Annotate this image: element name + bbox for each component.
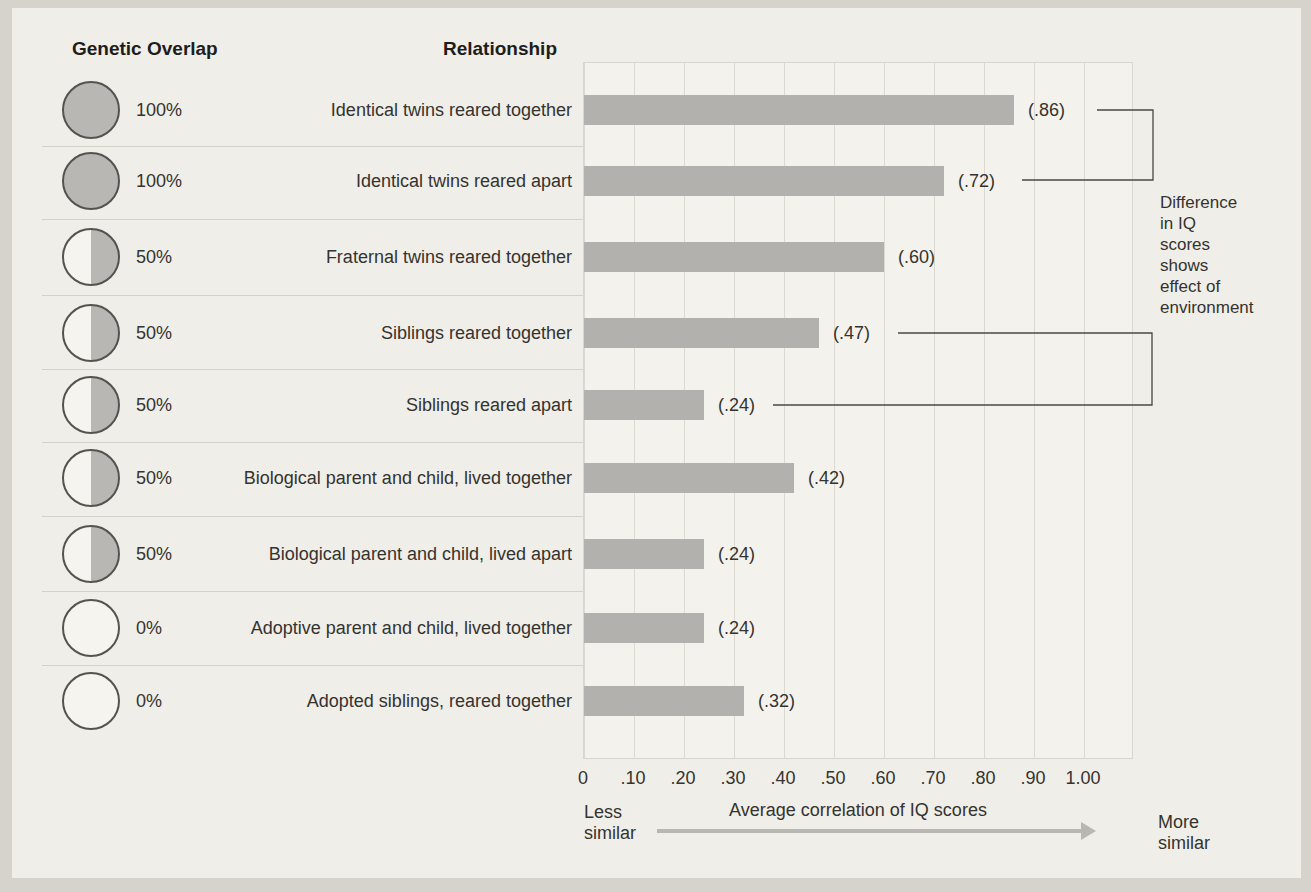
- correlation-bar: [584, 95, 1014, 125]
- x-axis-tick: .80: [970, 768, 995, 789]
- overlap-circle: [62, 304, 120, 362]
- x-axis-tick: .20: [670, 768, 695, 789]
- overlap-percent: 0%: [136, 691, 162, 712]
- row-separator: [42, 665, 583, 666]
- correlation-bar: [584, 318, 819, 348]
- row-separator: [42, 516, 583, 517]
- annotation-line: effect of: [1160, 276, 1290, 297]
- bar-value-label: (.72): [958, 171, 995, 192]
- relationship-label: Identical twins reared together: [240, 86, 572, 134]
- annotation-line: scores: [1160, 234, 1290, 255]
- annotation-line: environment: [1160, 297, 1290, 318]
- relationship-label: Adoptive parent and child, lived togethe…: [240, 604, 572, 652]
- overlap-circle: [62, 376, 120, 434]
- overlap-percent: 50%: [136, 323, 172, 344]
- correlation-bar: [584, 390, 704, 420]
- bar-value-label: (.24): [718, 618, 755, 639]
- x-axis-tick: 1.00: [1065, 768, 1100, 789]
- relationship-label: Biological parent and child, lived apart: [240, 530, 572, 578]
- overlap-circle: [62, 599, 120, 657]
- overlap-percent: 50%: [136, 395, 172, 416]
- x-axis-tick: 0: [578, 768, 588, 789]
- bar-value-label: (.24): [718, 544, 755, 565]
- correlation-bar: [584, 613, 704, 643]
- row-separator: [42, 369, 583, 370]
- more-similar-label: More similar: [1158, 812, 1228, 854]
- x-axis-tick: .30: [720, 768, 745, 789]
- relationship-label: Adopted siblings, reared together: [240, 677, 572, 725]
- annotation-line: shows: [1160, 255, 1290, 276]
- bar-value-label: (.24): [718, 395, 755, 416]
- genetic-overlap-header: Genetic Overlap: [72, 38, 218, 60]
- overlap-percent: 50%: [136, 247, 172, 268]
- similarity-arrow: [657, 829, 1081, 833]
- x-axis-tick: .90: [1020, 768, 1045, 789]
- x-axis-tick: .60: [870, 768, 895, 789]
- correlation-bar: [584, 242, 884, 272]
- bar-value-label: (.47): [833, 323, 870, 344]
- overlap-percent: 0%: [136, 618, 162, 639]
- overlap-percent: 100%: [136, 171, 182, 192]
- less-similar-label: Less similar: [584, 802, 646, 844]
- overlap-circle: [62, 228, 120, 286]
- x-axis-tick: .10: [620, 768, 645, 789]
- x-axis-tick: .40: [770, 768, 795, 789]
- figure-canvas: Genetic Overlap Relationship 100%Identic…: [0, 0, 1311, 892]
- row-separator: [42, 219, 583, 220]
- overlap-percent: 100%: [136, 100, 182, 121]
- relationship-label: Identical twins reared apart: [240, 157, 572, 205]
- relationship-label: Siblings reared apart: [240, 381, 572, 429]
- x-axis-title: Average correlation of IQ scores: [583, 800, 1133, 821]
- row-separator: [42, 591, 583, 592]
- annotation-line: Difference: [1160, 192, 1290, 213]
- relationship-label: Fraternal twins reared together: [240, 233, 572, 281]
- correlation-bar: [584, 686, 744, 716]
- bar-value-label: (.32): [758, 691, 795, 712]
- bar-value-label: (.86): [1028, 100, 1065, 121]
- row-separator: [42, 146, 583, 147]
- overlap-circle: [62, 81, 120, 139]
- overlap-percent: 50%: [136, 544, 172, 565]
- relationship-header: Relationship: [380, 38, 620, 60]
- bar-value-label: (.60): [898, 247, 935, 268]
- correlation-bar: [584, 166, 944, 196]
- correlation-bar: [584, 463, 794, 493]
- annotation-line: in IQ: [1160, 213, 1290, 234]
- similarity-arrow-head-icon: [1081, 822, 1096, 840]
- x-axis-tick: .50: [820, 768, 845, 789]
- relationship-label: Biological parent and child, lived toget…: [240, 454, 572, 502]
- correlation-bar: [584, 539, 704, 569]
- overlap-circle: [62, 525, 120, 583]
- environment-effect-annotation: Differencein IQscoresshowseffect ofenvir…: [1160, 192, 1290, 318]
- x-axis-tick: .70: [920, 768, 945, 789]
- row-separator: [42, 442, 583, 443]
- overlap-circle: [62, 672, 120, 730]
- row-separator: [42, 295, 583, 296]
- overlap-circle: [62, 152, 120, 210]
- overlap-circle: [62, 449, 120, 507]
- relationship-label: Siblings reared together: [240, 309, 572, 357]
- bar-value-label: (.42): [808, 468, 845, 489]
- overlap-percent: 50%: [136, 468, 172, 489]
